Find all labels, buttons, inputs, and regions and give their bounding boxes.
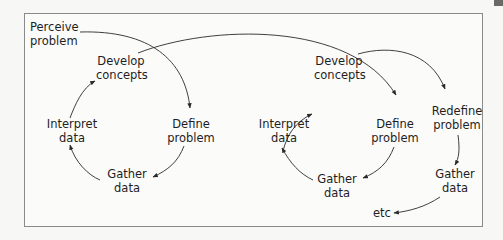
node-gather-data-2: Gather data xyxy=(312,172,362,200)
arrow-define1-to-gather1 xyxy=(153,146,184,177)
node-redefine-problem: Redefine problem xyxy=(429,104,485,132)
arrow-gather3-to-etc xyxy=(394,197,440,213)
node-etc: etc xyxy=(370,206,394,220)
arrow-define2-to-gather2 xyxy=(363,147,394,178)
node-develop-concepts-2: Develop concepts xyxy=(314,54,364,82)
node-perceive-problem: Perceive problem xyxy=(30,20,79,48)
node-develop-concepts-1: Develop concepts xyxy=(96,54,146,82)
node-define-problem-2: Define problem xyxy=(367,117,423,145)
node-gather-data-1: Gather data xyxy=(102,167,152,195)
node-define-problem-1: Define problem xyxy=(163,117,219,145)
arrow-gather2-to-interpret2 xyxy=(282,148,313,180)
arrow-gather1-to-interpret1 xyxy=(70,145,100,180)
node-gather-data-3: Gather data xyxy=(430,167,480,195)
node-interpret-data-2: Interpret data xyxy=(256,117,312,145)
arrow-develop2-to-redefine xyxy=(358,50,445,89)
node-interpret-data-1: Interpret data xyxy=(44,117,100,145)
arrow-redefine-to-gather3 xyxy=(455,135,459,165)
arrow-interpret1-to-develop1 xyxy=(70,81,95,118)
